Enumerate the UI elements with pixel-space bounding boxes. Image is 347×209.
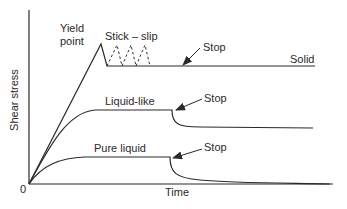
- liquid-like-curve: [29, 110, 313, 184]
- stop-label-pure-liquid: Stop: [204, 142, 227, 154]
- stop-arrow-solid: [183, 48, 200, 65]
- stop-label-liquid-like: Stop: [204, 93, 227, 105]
- yield-point-label-line1: Yield: [60, 23, 84, 35]
- pure-liquid-curve: [29, 157, 330, 184]
- stick-slip-dashes: [107, 45, 150, 66]
- yield-point-label-line2: point: [60, 36, 84, 48]
- stop-arrow-pure-liquid: [173, 149, 202, 158]
- origin-label: 0: [20, 184, 26, 196]
- pure-liquid-label: Pure liquid: [94, 143, 146, 155]
- x-axis-label: Time: [165, 187, 189, 199]
- stop-label-solid: Stop: [203, 42, 226, 54]
- shear-stress-diagram: [0, 0, 347, 209]
- stop-arrow-liquid-like: [176, 99, 202, 110]
- stick-slip-label: Stick – slip: [105, 31, 158, 43]
- solid-label: Solid: [290, 54, 314, 66]
- liquid-like-label: Liquid-like: [105, 96, 155, 108]
- y-axis-label: Shear stress: [8, 69, 20, 131]
